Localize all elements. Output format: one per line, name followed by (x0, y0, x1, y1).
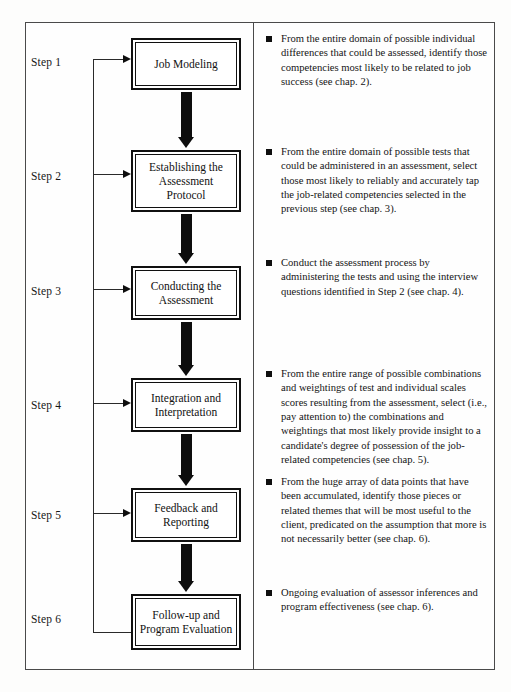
feedback-arrow-step-1 (93, 55, 131, 64)
node-label-6: Follow-up and Program Evaluation (136, 608, 236, 636)
process-node-feedback-reporting[interactable]: Feedback and Reporting (131, 488, 241, 542)
bullet-text-5: From the huge array of data points that … (281, 475, 488, 547)
node-label-5: Feedback and Reporting (136, 501, 236, 529)
bullet-item-step-5: From the huge array of data points that … (266, 475, 488, 547)
feedback-spine (93, 60, 94, 633)
flow-arrow-5-to-6 (178, 544, 194, 592)
process-node-job-modeling[interactable]: Job Modeling (131, 38, 241, 90)
feedback-arrow-step-4 (93, 399, 131, 408)
bullet-text-4: From the entire range of possible combin… (281, 367, 488, 467)
feedback-arrow-step-5 (93, 509, 131, 518)
node-label-4: Integration and Interpretation (136, 391, 236, 419)
feedback-arrow-step-3 (93, 285, 131, 294)
node-label-1: Job Modeling (151, 57, 221, 71)
node-inner-4: Integration and Interpretation (135, 382, 237, 428)
filled-square-bullet-icon (266, 590, 272, 596)
filled-square-bullet-icon (266, 36, 272, 42)
node-inner-5: Feedback and Reporting (135, 492, 237, 538)
bullet-text-6: Ongoing evaluation of assessor inference… (281, 586, 488, 615)
flow-arrow-1-to-2 (178, 92, 194, 148)
filled-square-bullet-icon (266, 479, 272, 485)
node-inner-6: Follow-up and Program Evaluation (135, 598, 237, 646)
flow-arrow-2-to-3 (178, 214, 194, 264)
node-inner-1: Job Modeling (135, 42, 237, 86)
process-node-conducting-assessment[interactable]: Conducting the Assessment (131, 266, 241, 320)
filled-square-bullet-icon (266, 260, 272, 266)
bullet-text-1: From the entire domain of possible indiv… (281, 32, 488, 89)
bullet-item-step-6: Ongoing evaluation of assessor inference… (266, 586, 488, 615)
feedback-arrow-step-2 (93, 170, 131, 179)
process-node-integration-interpretation[interactable]: Integration and Interpretation (131, 378, 241, 432)
node-inner-3: Conducting the Assessment (135, 270, 237, 316)
bullet-text-2: From the entire domain of possible tests… (281, 145, 488, 217)
bullet-item-step-3: Conduct the assessment process by admini… (266, 256, 488, 299)
flow-arrow-3-to-4 (178, 322, 194, 376)
bullet-item-step-2: From the entire domain of possible tests… (266, 145, 488, 217)
figure-page: Step 1 Step 2 Step 3 Step 4 Step 5 Step … (0, 0, 511, 692)
process-node-establishing-assessment-protocol[interactable]: Establishing the Assessment Protocol (131, 150, 241, 212)
filled-square-bullet-icon (266, 149, 272, 155)
filled-square-bullet-icon (266, 371, 272, 377)
node-label-3: Conducting the Assessment (136, 279, 236, 307)
node-label-2: Establishing the Assessment Protocol (136, 160, 236, 202)
bullet-item-step-1: From the entire domain of possible indiv… (266, 32, 488, 89)
figure-frame (25, 22, 495, 670)
column-divider (253, 22, 254, 670)
bullet-item-step-4: From the entire range of possible combin… (266, 367, 488, 467)
flow-arrow-4-to-5 (178, 434, 194, 486)
bullet-text-3: Conduct the assessment process by admini… (281, 256, 488, 299)
node-inner-2: Establishing the Assessment Protocol (135, 154, 237, 208)
process-node-followup-program-evaluation[interactable]: Follow-up and Program Evaluation (131, 594, 241, 650)
